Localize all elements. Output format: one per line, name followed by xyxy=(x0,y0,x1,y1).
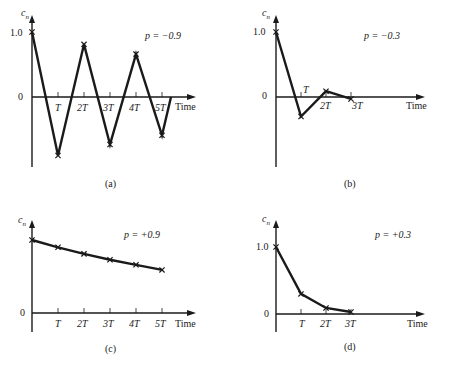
x-axis-arrow-icon xyxy=(416,311,425,317)
xtick-c-4: 4T xyxy=(129,319,140,329)
xlabel-d: Time xyxy=(407,319,428,329)
y-axis-arrow-icon xyxy=(273,220,279,228)
p-label-b: p = −0.3 xyxy=(364,31,400,41)
xtick-d-3: 3T xyxy=(345,319,356,329)
caption-c: (c) xyxy=(105,343,116,354)
ytick-one-a: 1.0 xyxy=(10,28,23,38)
data-line-a xyxy=(32,32,171,156)
xtick-d-1: T xyxy=(299,319,305,329)
figure-canvas xyxy=(0,0,450,373)
xtick-a-5: 5T xyxy=(155,103,166,113)
y-axis-arrow-icon xyxy=(29,220,35,228)
ytick-zero-c: 0 xyxy=(20,308,25,318)
data-line-c xyxy=(32,240,162,270)
ylabel-b: cn xyxy=(262,8,270,22)
x-axis-arrow-icon xyxy=(187,94,196,100)
caption-a: (a) xyxy=(105,178,116,189)
ylabel-d: cn xyxy=(262,214,270,228)
ytick-zero-d: 0 xyxy=(264,309,269,319)
p-label-c: p = +0.9 xyxy=(124,230,160,240)
xtick-c-1: T xyxy=(55,319,61,329)
xtick-a-3: 3T xyxy=(103,103,114,113)
x-axis-arrow-icon xyxy=(187,310,196,316)
ylabel-c: cn xyxy=(18,215,26,229)
data-line-d xyxy=(276,247,351,312)
xtick-a-4: 4T xyxy=(129,103,140,113)
xtick-c-5: 5T xyxy=(155,319,166,329)
y-axis-arrow-icon xyxy=(29,15,35,23)
ylabel-a: cn xyxy=(21,8,29,22)
xlabel-a: Time xyxy=(175,102,196,112)
y-axis-arrow-icon xyxy=(273,15,279,23)
ytick-zero-a: 0 xyxy=(18,92,23,102)
xtick-a-1: T xyxy=(55,103,61,113)
xtick-d-2: 2T xyxy=(320,319,331,329)
xtick-c-2: 2T xyxy=(77,319,88,329)
xlabel-c: Time xyxy=(175,319,196,329)
xtick-a-2: 2T xyxy=(77,103,88,113)
xtick-b-3: 3T xyxy=(352,101,363,111)
ytick-one-b: 1.0 xyxy=(253,27,266,37)
xtick-b-2: 2T xyxy=(320,101,331,111)
p-label-a: p = −0.9 xyxy=(145,31,181,41)
xtick-c-3: 3T xyxy=(103,319,114,329)
caption-d: (d) xyxy=(344,341,356,352)
xlabel-b: Time xyxy=(406,101,427,111)
data-line-b xyxy=(276,32,351,117)
ytick-one-d: 1.0 xyxy=(256,242,269,252)
caption-b: (b) xyxy=(344,178,356,189)
ytick-zero-b: 0 xyxy=(262,91,267,101)
xtick-b-1: T xyxy=(303,85,309,95)
p-label-d: p = +0.3 xyxy=(375,230,411,240)
